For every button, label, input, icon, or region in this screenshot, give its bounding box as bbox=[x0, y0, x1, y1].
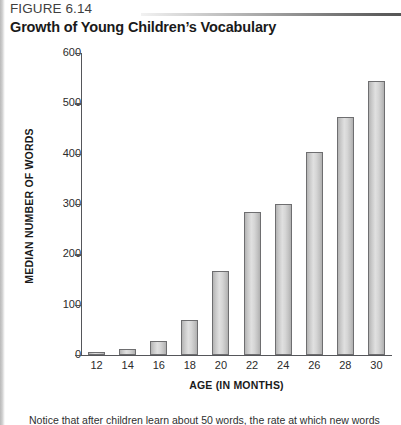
x-tick-label: 26 bbox=[297, 359, 331, 371]
bar bbox=[119, 349, 136, 355]
x-tick-label: 28 bbox=[328, 359, 362, 371]
y-tick: 500 bbox=[30, 103, 81, 104]
bar bbox=[275, 204, 292, 355]
y-tick: 400 bbox=[30, 154, 81, 155]
y-tick-label: 600 bbox=[41, 46, 81, 58]
y-tick: 300 bbox=[30, 204, 81, 205]
x-tick-label: 22 bbox=[235, 359, 269, 371]
x-tick-label: 12 bbox=[80, 359, 114, 371]
y-tick: 200 bbox=[30, 254, 81, 255]
y-tick-label: 100 bbox=[41, 298, 81, 310]
bar bbox=[212, 271, 229, 355]
x-tick-label: 18 bbox=[173, 359, 207, 371]
x-tick-label: 14 bbox=[111, 359, 145, 371]
y-tick-label: 300 bbox=[41, 197, 81, 209]
y-axis-title: MEDIAN NUMBER OF WORDS bbox=[23, 111, 35, 301]
y-tick: 600 bbox=[30, 53, 81, 54]
bar bbox=[88, 352, 105, 355]
y-tick-label: 400 bbox=[41, 147, 81, 159]
bar bbox=[306, 152, 323, 355]
y-tick: 0 bbox=[30, 355, 81, 356]
y-tick-label: 500 bbox=[41, 96, 81, 108]
x-axis-line bbox=[81, 355, 392, 356]
bar bbox=[337, 117, 354, 355]
bar bbox=[150, 341, 167, 355]
x-tick-label: 16 bbox=[142, 359, 176, 371]
y-tick-label: 0 bbox=[41, 348, 81, 360]
x-axis-title: AGE (IN MONTHS) bbox=[81, 379, 392, 391]
x-tick-label: 24 bbox=[266, 359, 300, 371]
bar bbox=[244, 212, 261, 355]
y-tick-mark bbox=[75, 355, 81, 356]
y-tick: 100 bbox=[30, 305, 81, 306]
bar-chart: MEDIAN NUMBER OF WORDS 01002003004005006… bbox=[0, 0, 401, 425]
bar-series bbox=[81, 53, 392, 355]
bar bbox=[181, 320, 198, 355]
figure-caption: Notice that after children learn about 5… bbox=[29, 414, 395, 425]
bar bbox=[368, 81, 385, 355]
y-tick-label: 200 bbox=[41, 247, 81, 259]
x-tick-label: 30 bbox=[359, 359, 393, 371]
x-tick-label: 20 bbox=[204, 359, 238, 371]
